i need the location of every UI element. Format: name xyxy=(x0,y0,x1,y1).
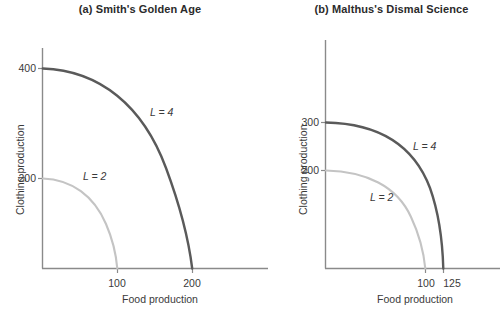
panel-b-curve-L2 xyxy=(326,171,425,269)
panel-malthuss-dismal-science: (b) Malthus's Dismal Science 300 200 100… xyxy=(280,0,503,311)
figure-container: (a) Smith's Golden Age 400 200 100 200 F… xyxy=(0,0,503,311)
panel-a-ytick-label-400: 400 xyxy=(8,62,36,74)
panel-a-curve-L4 xyxy=(43,69,192,269)
panel-a-curve-L2 xyxy=(43,179,118,269)
panel-b-xtick-label-125: 125 xyxy=(432,277,472,289)
panel-b-y-axis-title: Clothing production xyxy=(297,125,309,215)
panel-b-x-axis-title: Food production xyxy=(340,293,490,305)
panel-a-curve-label-L4: L = 4 xyxy=(150,106,173,118)
panel-a-xtick-label-100: 100 xyxy=(97,277,137,289)
panel-a-y-axis-title: Clothing production xyxy=(14,125,26,215)
panel-a-plot xyxy=(0,0,280,311)
panel-smiths-golden-age: (a) Smith's Golden Age 400 200 100 200 F… xyxy=(0,0,280,311)
panel-a-curve-label-L2: L = 2 xyxy=(83,170,106,182)
panel-a-x-axis-title: Food production xyxy=(60,293,260,305)
panel-b-curve-label-L4: L = 4 xyxy=(413,140,436,152)
panel-a-xtick-label-200: 200 xyxy=(172,277,212,289)
panel-b-plot xyxy=(280,0,503,311)
panel-b-curve-label-L2: L = 2 xyxy=(370,191,393,203)
